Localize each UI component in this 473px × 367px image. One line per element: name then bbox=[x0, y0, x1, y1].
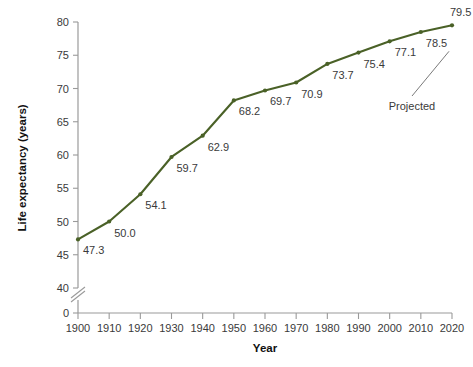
data-point-marker bbox=[232, 98, 236, 102]
data-point-label: 68.2 bbox=[239, 105, 260, 117]
data-point-marker bbox=[356, 50, 360, 54]
y-tick-label: 65 bbox=[57, 116, 69, 128]
x-tick-label: 1930 bbox=[159, 322, 183, 334]
data-point-label: 50.0 bbox=[114, 227, 135, 239]
y-axis-title: Life expectancy (years) bbox=[16, 104, 28, 231]
data-point-label: 75.4 bbox=[364, 58, 385, 70]
data-point-label: 78.5 bbox=[426, 37, 447, 49]
x-tick-label: 1970 bbox=[284, 322, 308, 334]
y-tick-label: 75 bbox=[57, 49, 69, 61]
data-point-label: 69.7 bbox=[270, 95, 291, 107]
x-tick-label: 1980 bbox=[315, 322, 339, 334]
x-tick-label: 1900 bbox=[66, 322, 90, 334]
data-point-marker bbox=[169, 155, 173, 159]
x-tick-label: 2010 bbox=[409, 322, 433, 334]
data-point-marker bbox=[138, 192, 142, 196]
y-tick-label: 80 bbox=[57, 16, 69, 28]
data-point-marker bbox=[107, 219, 111, 223]
y-tick-label: 50 bbox=[57, 216, 69, 228]
x-axis-title: Year bbox=[253, 342, 278, 354]
x-tick-label: 2020 bbox=[440, 322, 464, 334]
x-tick-label: 1990 bbox=[346, 322, 370, 334]
x-tick-label: 1910 bbox=[97, 322, 121, 334]
data-point-marker bbox=[388, 39, 392, 43]
y-tick-label: 60 bbox=[57, 149, 69, 161]
y-tick-label: 40 bbox=[57, 282, 69, 294]
data-point-marker bbox=[419, 30, 423, 34]
projected-label: Projected bbox=[389, 100, 435, 112]
life-expectancy-chart: 0404550556065707580 19001910192019301940… bbox=[0, 0, 473, 367]
data-point-label: 54.1 bbox=[145, 199, 166, 211]
data-point-marker bbox=[76, 237, 80, 241]
y-tick-label: 45 bbox=[57, 249, 69, 261]
data-point-marker bbox=[263, 88, 267, 92]
data-point-label: 62.9 bbox=[208, 141, 229, 153]
x-tick-label: 1920 bbox=[128, 322, 152, 334]
data-point-marker bbox=[325, 62, 329, 66]
x-tick-label: 2000 bbox=[377, 322, 401, 334]
data-point-label: 59.7 bbox=[177, 162, 198, 174]
chart-svg: 0404550556065707580 19001910192019301940… bbox=[0, 0, 473, 367]
data-point-marker bbox=[450, 23, 454, 27]
data-point-marker bbox=[201, 134, 205, 138]
y-tick-label: 55 bbox=[57, 182, 69, 194]
x-tick-label: 1950 bbox=[222, 322, 246, 334]
x-tick-label: 1960 bbox=[253, 322, 277, 334]
y-tick-label: 70 bbox=[57, 83, 69, 95]
data-point-label: 73.7 bbox=[332, 69, 353, 81]
data-point-marker bbox=[294, 80, 298, 84]
data-point-label: 47.3 bbox=[83, 244, 104, 256]
data-point-label: 79.5 bbox=[450, 6, 471, 18]
x-tick-label: 1940 bbox=[190, 322, 214, 334]
y-tick-label: 0 bbox=[63, 307, 69, 319]
data-point-label: 70.9 bbox=[301, 88, 322, 100]
data-point-label: 77.1 bbox=[395, 46, 416, 58]
